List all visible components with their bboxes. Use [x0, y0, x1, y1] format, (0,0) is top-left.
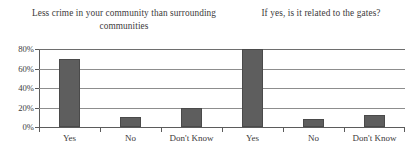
x-axis-tick — [161, 128, 162, 132]
y-axis-tick — [35, 88, 39, 89]
y-axis-tick — [35, 69, 39, 70]
bar — [120, 117, 141, 127]
gridline-60 — [39, 69, 405, 70]
y-axis-tick — [35, 49, 39, 50]
x-axis-label: No — [308, 133, 319, 143]
x-axis-tick — [39, 128, 40, 132]
x-axis-label: No — [125, 133, 136, 143]
y-axis-label: 20% — [18, 103, 34, 113]
chart-figure: Less crime in your community than surrou… — [0, 0, 410, 154]
x-axis-label: Yes — [63, 133, 76, 143]
chart-titles: Less crime in your community than surrou… — [0, 0, 410, 44]
panel-title-left: Less crime in your community than surrou… — [18, 7, 230, 32]
y-axis-label: 60% — [18, 64, 34, 74]
gridline-80 — [39, 49, 405, 50]
x-axis-tick — [404, 128, 405, 132]
y-axis-label: 0% — [23, 122, 34, 132]
bar — [181, 108, 202, 128]
x-axis-tick — [283, 128, 284, 132]
bar — [303, 119, 324, 127]
bar — [364, 115, 385, 127]
x-axis-label: Yes — [246, 133, 259, 143]
y-axis-label: 80% — [18, 44, 34, 54]
gridline-40 — [39, 88, 405, 89]
bar — [242, 49, 263, 127]
plot-area: 80%60%40%20%0%YesNoDon't KnowYesNoDon't … — [39, 49, 405, 128]
x-axis-tick — [344, 128, 345, 132]
x-axis-label: Don't Know — [170, 133, 214, 143]
gridline-20 — [39, 108, 405, 109]
x-axis-tick — [222, 128, 223, 132]
x-axis-tick — [100, 128, 101, 132]
y-axis-label: 40% — [18, 83, 34, 93]
y-axis-tick — [35, 108, 39, 109]
x-axis-label: Don't Know — [353, 133, 397, 143]
bar — [59, 59, 80, 127]
panel-title-right: If yes, is it related to the gates? — [232, 7, 410, 20]
